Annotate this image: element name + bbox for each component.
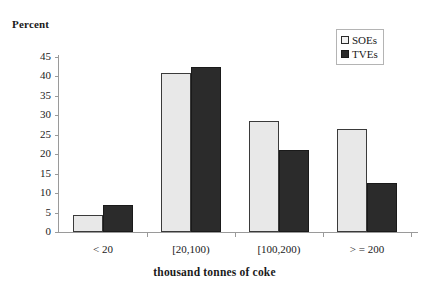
- x-axis-line: [58, 232, 418, 233]
- y-axis-tick-label: 25: [40, 127, 51, 142]
- bar-group: [147, 57, 235, 232]
- y-axis-tick: 30: [0, 115, 59, 116]
- y-axis-title: Percent: [12, 18, 49, 30]
- y-axis-tick-label: 45: [40, 49, 51, 64]
- y-axis-tick: 45: [0, 57, 59, 58]
- x-axis-category-label: [100,200): [235, 243, 323, 255]
- bar-tves: [367, 183, 397, 232]
- legend: SOEs TVEs: [336, 29, 384, 65]
- y-axis-tick-label: 15: [40, 166, 51, 181]
- bar-group: [59, 57, 147, 232]
- bar-soes: [249, 121, 279, 232]
- x-axis-separator: [323, 232, 324, 237]
- legend-item-soes: SOEs: [341, 33, 378, 47]
- y-axis-tick-label: 30: [40, 107, 51, 122]
- x-axis-separator: [411, 232, 412, 237]
- y-axis-tick: 25: [0, 135, 59, 136]
- legend-label-tves: TVEs: [352, 48, 378, 60]
- x-axis-category-label: < 20: [59, 243, 147, 255]
- x-axis-title: thousand tonnes of coke: [0, 266, 429, 278]
- y-axis-tick: 10: [0, 193, 59, 194]
- y-axis-tick: 15: [0, 174, 59, 175]
- y-axis-tick: 0: [0, 232, 59, 233]
- bar-tves: [279, 150, 309, 232]
- y-axis-tick-label: 5: [46, 205, 52, 220]
- y-axis-tick: 20: [0, 154, 59, 155]
- legend-label-soes: SOEs: [352, 34, 377, 46]
- legend-item-tves: TVEs: [341, 47, 378, 61]
- x-axis-separator: [147, 232, 148, 237]
- y-axis-tick-label: 10: [40, 185, 51, 200]
- plot-area: [59, 57, 411, 232]
- x-axis-category-label: > = 200: [323, 243, 411, 255]
- x-axis-category-label: [20,100): [147, 243, 235, 255]
- y-axis-tick-label: 35: [40, 88, 51, 103]
- bar-soes: [161, 73, 191, 232]
- bar-soes: [337, 129, 367, 232]
- bar-tves: [191, 67, 221, 232]
- bar-group: [235, 57, 323, 232]
- bar-chart: Percent 051015202530354045 < 20[20,100)[…: [0, 0, 429, 292]
- y-axis-tick: 35: [0, 96, 59, 97]
- legend-swatch-soes-icon: [341, 36, 349, 44]
- y-axis-tick: 40: [0, 76, 59, 77]
- bar-tves: [103, 205, 133, 232]
- x-axis-separator: [235, 232, 236, 237]
- legend-swatch-tves-icon: [341, 50, 349, 58]
- y-axis-tick-mark: [55, 232, 59, 233]
- y-axis-tick-label: 20: [40, 146, 51, 161]
- y-axis-tick: 5: [0, 213, 59, 214]
- bar-soes: [73, 215, 103, 232]
- y-axis-tick-label: 0: [46, 224, 52, 239]
- bar-group: [323, 57, 411, 232]
- y-axis-tick-label: 40: [40, 68, 51, 83]
